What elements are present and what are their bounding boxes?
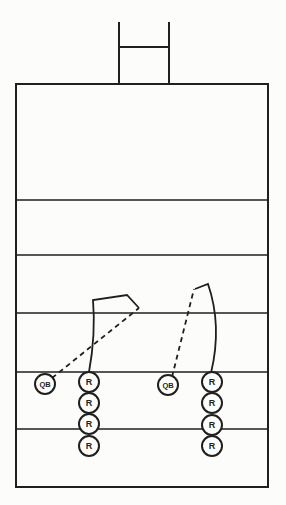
player-left-qb: QB — [35, 374, 55, 394]
field-outline — [16, 84, 268, 487]
left-receiver-route — [89, 295, 139, 372]
player-label: R — [209, 441, 216, 451]
player-right-receiver-4: R — [202, 436, 222, 456]
football-play-diagram: QBRRRRQBRRRR — [0, 0, 286, 505]
right-qb-dashed-path — [172, 289, 194, 377]
player-label: R — [86, 377, 93, 387]
player-right-receiver-2: R — [202, 393, 222, 413]
player-right-qb: QB — [158, 375, 178, 395]
right-receiver-route — [195, 284, 216, 373]
player-label: R — [86, 441, 93, 451]
player-label: R — [209, 377, 216, 387]
player-label: QB — [162, 381, 174, 390]
player-left-receiver-4: R — [79, 436, 99, 456]
player-left-receiver-1: R — [79, 372, 99, 392]
play-diagram-canvas: QBRRRRQBRRRR — [0, 0, 286, 505]
player-left-receiver-3: R — [79, 414, 99, 434]
player-label: R — [86, 419, 93, 429]
left-qb-dashed-path — [52, 308, 139, 378]
player-label: QB — [39, 380, 51, 389]
player-label: R — [86, 398, 93, 408]
player-right-receiver-3: R — [202, 415, 222, 435]
player-label: R — [209, 398, 216, 408]
player-right-receiver-1: R — [202, 372, 222, 392]
player-label: R — [209, 420, 216, 430]
player-left-receiver-2: R — [79, 393, 99, 413]
